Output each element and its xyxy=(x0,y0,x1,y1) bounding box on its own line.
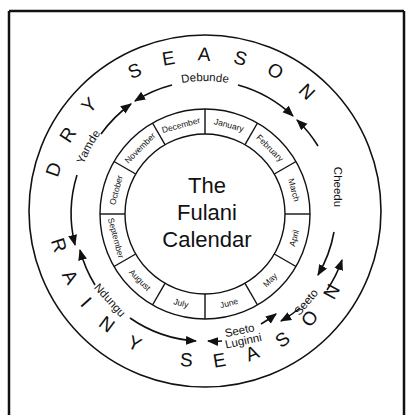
arc-luginni-up xyxy=(261,314,276,324)
title-line-1: The xyxy=(188,173,226,198)
arc-cheedu-top xyxy=(297,120,318,146)
title-line-3: Calendar xyxy=(162,227,251,252)
center-title: The Fulani Calendar xyxy=(162,173,251,252)
month-october: October xyxy=(107,174,125,206)
month-may: May xyxy=(261,270,280,289)
month-january: January xyxy=(213,116,246,134)
month-september: September xyxy=(106,217,126,260)
month-november: November xyxy=(123,130,158,165)
month-june: June xyxy=(219,296,240,311)
month-december: December xyxy=(161,115,202,135)
fulani-calendar-diagram: DRYSEASON RAINYSEASON Debunde Yamde Chee xyxy=(0,0,407,415)
title-line-2: Fulani xyxy=(177,200,237,225)
arc-debunde-left xyxy=(135,85,172,101)
month-july: July xyxy=(172,296,190,310)
label-cheedu: Cheedu xyxy=(332,167,344,207)
arc-yamde-down xyxy=(71,175,77,245)
arc-yamde-top xyxy=(101,104,131,134)
arc-debunde-right xyxy=(238,85,293,116)
label-debunde: Debunde xyxy=(180,71,229,85)
month-march: March xyxy=(286,177,302,203)
month-april: April xyxy=(287,228,301,247)
arc-cheedu-bottom xyxy=(318,232,334,275)
month-february: February xyxy=(254,132,286,164)
